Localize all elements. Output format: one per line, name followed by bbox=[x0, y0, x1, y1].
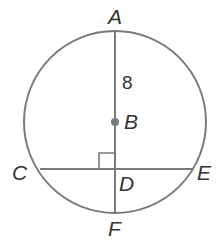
label-C: C bbox=[12, 162, 27, 183]
label-E: E bbox=[197, 162, 211, 183]
label-F: F bbox=[108, 218, 121, 239]
label-B: B bbox=[124, 111, 138, 132]
circle-diagram bbox=[0, 0, 221, 251]
right-angle-marker bbox=[99, 153, 115, 169]
label-D: D bbox=[119, 173, 134, 194]
center-point-B bbox=[111, 118, 119, 126]
length-label: 8 bbox=[122, 73, 133, 92]
label-A: A bbox=[108, 6, 122, 27]
